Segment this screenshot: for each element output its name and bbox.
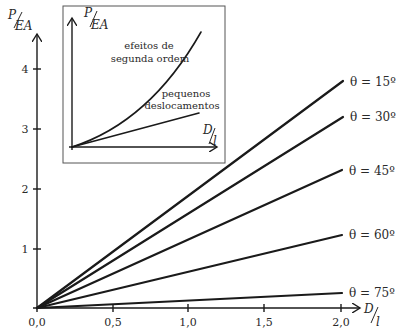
series-theta-45 (37, 170, 342, 308)
y-tick-label: 3 (22, 123, 29, 136)
inset-line-label: pequenos (162, 88, 211, 99)
inset-frame (63, 6, 225, 163)
inset: P EA D l efeitos de segunda ordem pequen… (63, 6, 225, 163)
svg-text:EA: EA (14, 19, 33, 33)
svg-text:EA: EA (90, 18, 109, 32)
svg-text:l: l (213, 134, 217, 148)
y-ticks: 1 2 3 4 (22, 63, 42, 256)
x-tick-label: 2,0 (332, 316, 350, 329)
y-tick-label: 1 (22, 243, 29, 256)
series-theta-75 (37, 293, 342, 308)
label-theta-30: θ = 30º (350, 110, 396, 124)
x-tick-label: 1,0 (179, 316, 197, 329)
label-theta-45: θ = 45º (349, 164, 395, 178)
x-tick-label: 1,5 (255, 316, 273, 329)
svg-text:D: D (363, 302, 374, 316)
y-axis-label: P EA (7, 8, 33, 33)
series-theta-60 (37, 235, 342, 308)
series-labels: θ = 15º θ = 30º θ = 45º θ = 60º θ = 75º (349, 75, 396, 300)
x-tick-label: 0,5 (104, 316, 122, 329)
inset-line-label: deslocamentos (144, 100, 219, 111)
y-tick-label: 2 (22, 183, 29, 196)
label-theta-15: θ = 15º (350, 75, 396, 89)
inset-curve-label: efeitos de (124, 40, 173, 51)
label-theta-75: θ = 75º (349, 286, 395, 300)
x-axis-label: D l (363, 302, 380, 329)
x-tick-label: 0,0 (28, 316, 46, 329)
y-tick-label: 4 (22, 63, 29, 76)
svg-text:l: l (376, 315, 380, 329)
svg-text:D: D (202, 123, 213, 137)
label-theta-60: θ = 60º (349, 228, 395, 242)
inset-curve-label: segunda ordem (111, 53, 190, 64)
chart: 1 2 3 4 0,0 0,5 1,0 1,5 2,0 P EA D l (0, 0, 397, 335)
